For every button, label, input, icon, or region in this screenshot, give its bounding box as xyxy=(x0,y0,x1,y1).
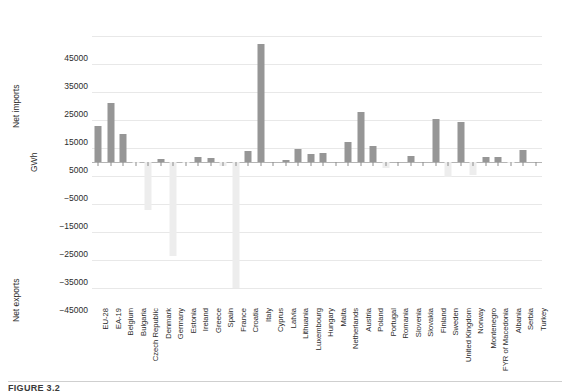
bar[interactable] xyxy=(232,162,239,288)
bar[interactable] xyxy=(370,146,377,162)
x-axis-tick xyxy=(473,162,474,166)
bar[interactable] xyxy=(120,134,127,162)
bar[interactable] xyxy=(170,162,177,256)
x-axis-tick xyxy=(298,162,299,166)
y-axis-tick-label: 5000 xyxy=(69,165,88,175)
bar[interactable] xyxy=(107,103,114,162)
x-axis-tick xyxy=(448,162,449,166)
x-axis-tick-label: Finland xyxy=(439,308,448,333)
bar[interactable] xyxy=(432,119,439,162)
x-axis-tick-label: Montenegro xyxy=(489,308,498,349)
x-axis-tick xyxy=(210,162,211,166)
x-axis-tick xyxy=(423,162,424,166)
x-axis-tick-label: Sweden xyxy=(451,308,460,335)
x-axis-tick-label: Latvia xyxy=(289,308,298,328)
x-axis-tick-label: Netherlands xyxy=(351,308,360,349)
y-axis-tick-label: −45000 xyxy=(59,305,88,315)
x-axis-tick xyxy=(323,162,324,166)
x-axis-tick-label: Austria xyxy=(364,308,373,332)
x-axis-tick xyxy=(348,162,349,166)
y-axis-title-net-imports: Net imports xyxy=(11,85,21,128)
x-axis-tick-label: Albania xyxy=(514,308,523,333)
x-axis-tick xyxy=(485,162,486,166)
x-axis-tick xyxy=(110,162,111,166)
y-axis-tick-label: −15000 xyxy=(59,221,88,231)
x-axis-tick-label: EA-19 xyxy=(114,308,123,329)
bar[interactable] xyxy=(245,151,252,162)
x-axis-tick-label: Denmark xyxy=(164,308,173,339)
bar[interactable] xyxy=(145,162,152,210)
x-axis-tick-label: Serbia xyxy=(526,308,535,330)
x-axis-tick xyxy=(285,162,286,166)
x-axis-tick xyxy=(260,162,261,166)
x-axis-tick xyxy=(173,162,174,166)
x-axis-tick-label: Slovakia xyxy=(426,308,435,337)
x-axis-tick-label: Belgium xyxy=(126,308,135,335)
x-axis-tick-label: Malta xyxy=(339,308,348,327)
x-axis-tick xyxy=(198,162,199,166)
bar[interactable] xyxy=(95,126,102,162)
x-axis-tick xyxy=(248,162,249,166)
x-axis-tick-label: Germany xyxy=(176,308,185,339)
x-axis-tick xyxy=(385,162,386,166)
x-axis-tick-label: Spain xyxy=(226,308,235,327)
x-axis-tick-label: Romania xyxy=(401,308,410,338)
bar[interactable] xyxy=(307,154,314,162)
x-axis-tick-label: Greece xyxy=(214,308,223,333)
x-axis-tick xyxy=(185,162,186,166)
x-axis-tick xyxy=(460,162,461,166)
y-axis-tick-label: −5000 xyxy=(64,193,88,203)
x-axis-tick xyxy=(98,162,99,166)
bar[interactable] xyxy=(257,44,264,162)
x-axis-tick-label: EU-28 xyxy=(101,308,110,330)
x-axis-tick xyxy=(123,162,124,166)
x-axis-tick-labels: EU-28EA-19BelgiumBulgariaCzech RepublicD… xyxy=(92,308,542,378)
x-axis-tick xyxy=(310,162,311,166)
x-axis-tick-label: Ireland xyxy=(201,308,210,331)
x-axis-tick-label: Italy xyxy=(264,308,273,322)
x-axis-tick-label: Estonia xyxy=(189,308,198,333)
x-axis-tick-label: Bulgaria xyxy=(139,308,148,336)
x-axis-tick xyxy=(398,162,399,166)
bar[interactable] xyxy=(295,149,302,162)
x-axis-tick xyxy=(523,162,524,166)
x-axis-tick-label: Poland xyxy=(376,308,385,332)
x-axis-tick xyxy=(335,162,336,166)
x-axis-tick-label: United Kingdom xyxy=(464,308,473,362)
x-axis-tick xyxy=(148,162,149,166)
x-axis-tick-label: Turkey xyxy=(539,308,548,331)
x-axis-tick-label: Portugal xyxy=(389,308,398,336)
x-axis-tick-label: Croatia xyxy=(251,308,260,332)
x-axis-tick-label: Norway xyxy=(476,308,485,334)
x-axis-tick xyxy=(360,162,361,166)
bar[interactable] xyxy=(357,112,364,162)
x-axis-tick xyxy=(235,162,236,166)
y-axis-tick-label: 35000 xyxy=(64,81,88,91)
x-axis-tick xyxy=(373,162,374,166)
figure-root: 450003500025000150005000−5000−15000−2500… xyxy=(0,0,570,392)
x-axis-tick xyxy=(135,162,136,166)
x-axis-tick xyxy=(223,162,224,166)
x-axis-tick-label: FYR of Macedonia xyxy=(501,308,510,371)
y-axis-tick-label: −35000 xyxy=(59,277,88,287)
y-axis-title-net-exports: Net exports xyxy=(11,279,21,322)
x-axis-tick-label: Luxembourg xyxy=(314,308,323,350)
y-axis-tick-label: −25000 xyxy=(59,249,88,259)
x-axis-tick-label: Hungary xyxy=(326,308,335,337)
x-axis-tick-label: Lithuania xyxy=(301,308,310,339)
footer-divider xyxy=(8,381,562,382)
bar[interactable] xyxy=(320,153,327,162)
x-axis-tick xyxy=(160,162,161,166)
x-axis-tick xyxy=(510,162,511,166)
x-axis-ticks xyxy=(92,162,542,166)
bar[interactable] xyxy=(345,142,352,162)
bar[interactable] xyxy=(457,122,464,162)
x-axis-tick xyxy=(273,162,274,166)
y-axis-title-unit: GWh xyxy=(29,153,39,172)
y-axis-tick-label: 45000 xyxy=(64,53,88,63)
bar[interactable] xyxy=(520,150,527,162)
y-axis-tick-label: 25000 xyxy=(64,109,88,119)
figure-caption-clip: FIGURE 3.2 xyxy=(8,384,308,392)
y-axis-tick-label: 15000 xyxy=(64,137,88,147)
x-axis-tick-label: Cyprus xyxy=(276,308,285,332)
